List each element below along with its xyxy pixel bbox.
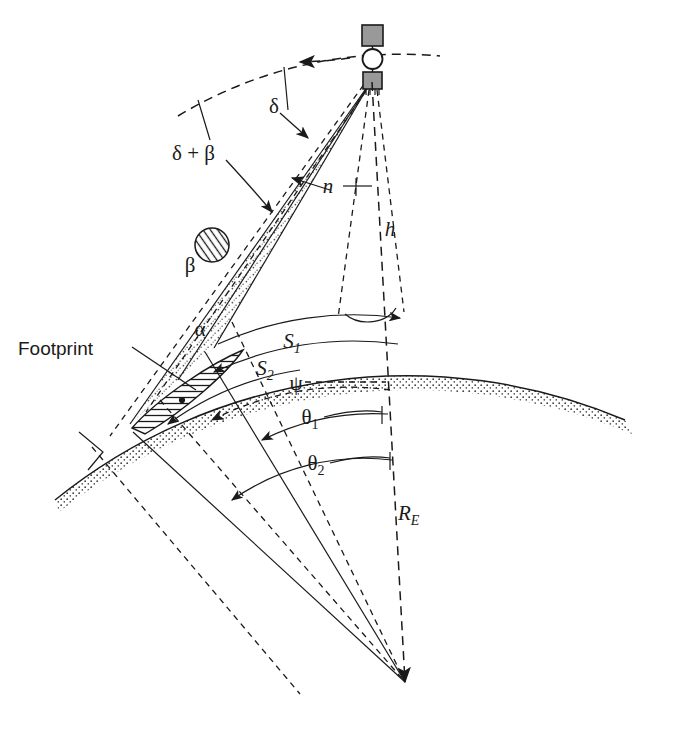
nadir-beam-dashed [338,90,404,318]
satellite-geometry-svg: δ δ + β β α n h Footprint S1 S2 ψ θ1 θ2 … [0,0,684,734]
s1-label: S1 [283,329,301,356]
s1-distance-arrow [218,315,400,344]
delta-label: δ [269,94,279,118]
sensor-beam-cone-stippled [130,80,372,424]
n-label: n [323,174,334,198]
s2-distance-arrow [214,341,398,372]
beta-label: β [185,253,196,277]
figure-canvas: δ δ + β β α n h Footprint S1 S2 ψ θ1 θ2 … [0,0,684,734]
orbit-path-dashed-with-direction-arrow [178,54,440,116]
psi-label: ψ [289,371,302,395]
footprint-label: Footprint [18,338,94,359]
horizon-tangent-line [92,447,300,694]
theta1-label: θ1 [301,405,318,432]
re-label: RE [397,501,420,528]
hatched-beta-circle [195,228,229,262]
right-angle-marker [79,432,103,470]
delta-plus-beta-label: δ + β [172,141,215,165]
theta2-label: θ2 [307,451,324,478]
alpha-label: α [194,317,205,341]
delta-angle-arc [280,67,308,138]
theta1-angle-arc [262,414,388,440]
h-label: h [385,217,396,241]
s2-label: S2 [256,356,274,383]
earth-surface-arc-with-stipple-band [55,376,632,512]
